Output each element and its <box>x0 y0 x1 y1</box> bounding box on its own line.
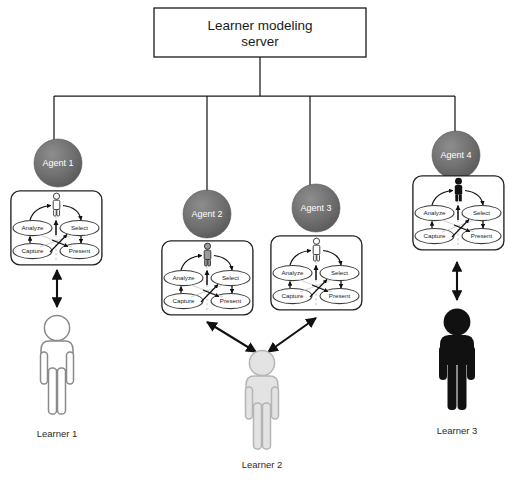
server-title-line2: server <box>241 34 279 49</box>
agent-3-module[interactable]: Analyze Capture Select Present <box>271 236 362 310</box>
agent-1-oval-analyze: Analyze <box>21 224 44 231</box>
agent-4-oval-analyze: Analyze <box>423 209 446 216</box>
agent-2-figure-icon <box>204 243 211 266</box>
agent-1-figure-icon <box>53 193 60 216</box>
agent-4-module[interactable]: Analyze Capture Select Present <box>413 176 504 250</box>
agent-4-oval-present: Present <box>471 232 493 239</box>
agent-3-oval-capture: Capture <box>281 292 304 299</box>
agent-2-learner-2-link <box>207 322 256 352</box>
learner-3-label: Learner 3 <box>437 425 478 436</box>
learner-2-label: Learner 2 <box>242 459 283 470</box>
agent-4-oval-capture: Capture <box>423 232 446 239</box>
learner-1-label: Learner 1 <box>37 428 78 439</box>
agent-1-oval-present: Present <box>69 247 91 254</box>
learner-3-group[interactable]: Learner 3 <box>437 309 478 436</box>
agent-3-oval-present: Present <box>329 292 351 299</box>
diagram-root: Learner modeling server Agent 1 <box>0 0 512 480</box>
agent-2-label: Agent 2 <box>191 209 222 219</box>
agent-1-label: Agent 1 <box>42 158 73 168</box>
agent-2-oval-present: Present <box>220 297 242 304</box>
agent-3-label: Agent 3 <box>300 203 331 213</box>
learner-1-figure-icon <box>41 315 74 414</box>
agent-2-oval-capture: Capture <box>172 297 195 304</box>
learner-2-group[interactable]: Learner 2 <box>242 350 283 470</box>
agent-3-figure-icon <box>313 238 320 261</box>
agent-3-group[interactable]: Agent 3 Analyze Capture Select Present <box>268 184 362 352</box>
agent-1-group[interactable]: Agent 1 Analyze Capture Select Present <box>11 139 102 307</box>
diagram-canvas: Learner modeling server Agent 1 <box>0 0 512 480</box>
agent-1-oval-capture: Capture <box>21 247 44 254</box>
agent-4-label: Agent 4 <box>440 150 471 160</box>
agent-3-oval-analyze: Analyze <box>281 269 304 276</box>
server-title-line1: Learner modeling <box>207 18 312 33</box>
agent-3-learner-2-link <box>268 318 316 352</box>
agent-2-oval-select: Select <box>222 274 239 281</box>
agent-3-oval-select: Select <box>331 269 348 276</box>
learner-3-figure-icon <box>439 309 475 410</box>
agent-1-module[interactable]: Analyze Capture Select Present <box>11 191 102 265</box>
server-agent-tree-connector <box>54 57 455 192</box>
learner-2-figure-icon <box>246 350 279 449</box>
agent-2-module[interactable]: Analyze Capture Select Present <box>162 241 253 315</box>
agent-1-oval-select: Select <box>71 224 88 231</box>
agent-4-group[interactable]: Agent 4 Analyze Capture Select Present <box>413 131 504 300</box>
agent-4-oval-select: Select <box>473 209 490 216</box>
agent-2-oval-analyze: Analyze <box>172 274 195 281</box>
agent-2-group[interactable]: Agent 2 Analyze Capture Select Present <box>162 190 256 352</box>
learner-modeling-server-node: Learner modeling server <box>154 8 366 57</box>
learner-1-group[interactable]: Learner 1 <box>37 315 78 439</box>
